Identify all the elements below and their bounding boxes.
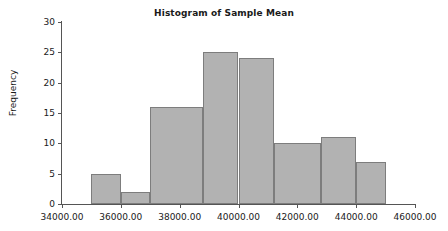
x-tick-label: 40000.00 — [217, 212, 260, 222]
histogram-bar — [121, 192, 150, 204]
x-tick-mark — [239, 204, 240, 208]
histogram-bar — [321, 137, 356, 204]
histogram-bar — [239, 58, 274, 204]
histogram-chart: Histogram of Sample Mean Frequency 05101… — [0, 0, 448, 231]
y-tick-label: 10 — [44, 138, 55, 148]
x-tick-mark — [356, 204, 357, 208]
y-tick-mark — [58, 52, 62, 53]
x-tick-mark — [62, 204, 63, 208]
histogram-bar — [203, 52, 238, 204]
y-tick-label: 25 — [44, 47, 55, 57]
y-tick-label: 5 — [49, 169, 55, 179]
x-tick-label: 44000.00 — [335, 212, 378, 222]
x-tick-mark — [415, 204, 416, 208]
x-tick-mark — [121, 204, 122, 208]
histogram-bar — [274, 143, 321, 204]
histogram-bar — [91, 174, 120, 204]
x-tick-mark — [297, 204, 298, 208]
x-tick-label: 46000.00 — [394, 212, 437, 222]
y-tick-mark — [58, 174, 62, 175]
y-tick-mark — [58, 113, 62, 114]
y-tick-mark — [58, 22, 62, 23]
x-tick-label: 42000.00 — [276, 212, 319, 222]
y-tick-label: 0 — [49, 199, 55, 209]
histogram-bar — [150, 107, 203, 204]
y-tick-label: 30 — [44, 17, 55, 27]
y-axis-label: Frequency — [8, 58, 18, 128]
y-tick-label: 15 — [44, 108, 55, 118]
y-tick-label: 20 — [44, 78, 55, 88]
plot-area: 051015202530 34000.0036000.0038000.00400… — [62, 22, 415, 204]
y-tick-mark — [58, 143, 62, 144]
histogram-bar — [356, 162, 385, 204]
y-tick-mark — [58, 83, 62, 84]
x-tick-label: 34000.00 — [41, 212, 84, 222]
x-tick-label: 38000.00 — [158, 212, 201, 222]
chart-title: Histogram of Sample Mean — [0, 8, 448, 18]
x-tick-mark — [180, 204, 181, 208]
x-tick-label: 36000.00 — [99, 212, 142, 222]
